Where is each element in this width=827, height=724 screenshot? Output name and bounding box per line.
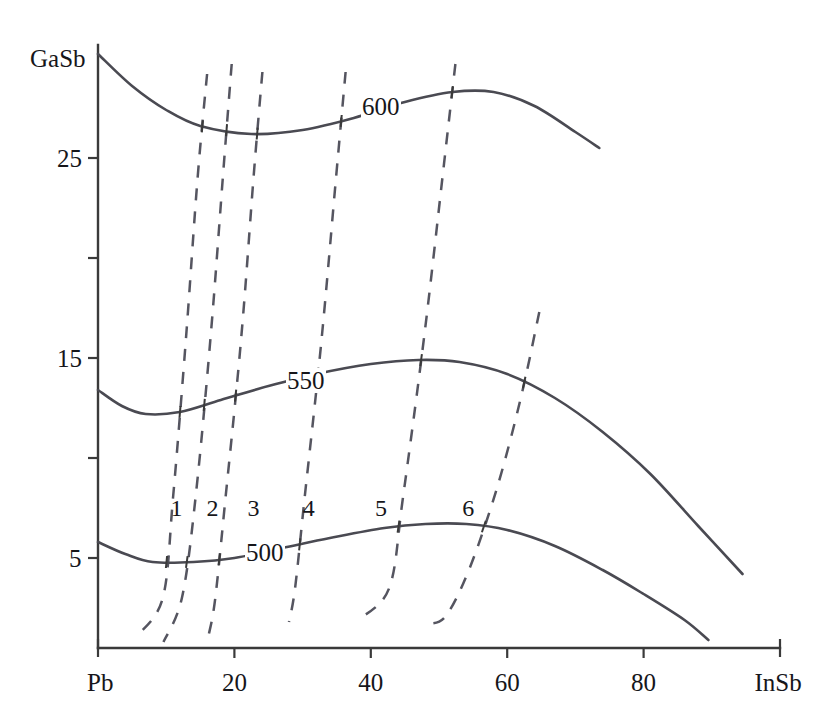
x-axis-start-label: Pb [87,670,113,695]
tie-line-2 [164,64,232,642]
chart-canvas [0,0,827,724]
intersection-mark [219,554,220,566]
tie-line-label-2: 2 [207,496,219,520]
tie-line-label-1: 1 [170,496,182,520]
isotherm-curve-600 [98,54,599,148]
isotherm-label-600: 600 [361,94,401,119]
tie-line-1 [137,74,207,636]
isotherm-label-500: 500 [245,540,285,565]
intersection-mark [186,556,188,568]
tie-line-label-3: 3 [247,496,259,520]
intersection-mark [180,406,181,418]
intersection-mark [166,556,167,568]
y-tick-label-25: 25 [57,146,82,171]
y-axis-top-label: GaSb [30,46,86,71]
x-tick-label-60: 60 [495,670,520,695]
y-tick-label-5: 5 [69,546,82,571]
isotherm-curves-group [98,54,743,640]
x-tick-label-40: 40 [358,670,383,695]
isotherm-label-550: 550 [286,368,326,393]
intersection-mark [341,115,342,127]
intersection-mark [257,128,258,140]
isotherm-curve-550 [98,360,743,574]
intersection-mark [299,538,300,550]
x-tick-label-80: 80 [631,670,656,695]
intersection-mark [235,390,236,402]
intersection-mark [452,86,453,98]
intersection-mark [523,377,526,389]
intersection-mark [204,399,205,411]
x-axis-end-label: InSb [755,670,802,695]
intersection-mark [202,120,203,132]
chart-figure: GaSb 25 15 5 Pb 20 40 60 80 InSb 600 550… [0,0,827,724]
tie-lines-group [137,64,539,642]
tie-line-6 [427,312,540,624]
isotherm-curve-500 [98,523,708,640]
tie-line-label-5: 5 [375,496,387,520]
x-tick-label-20: 20 [222,670,247,695]
y-tick-label-15: 15 [57,346,82,371]
tie-line-label-4: 4 [303,496,315,520]
tie-line-5 [358,64,456,620]
intersection-mark [226,124,227,136]
axes-group [88,45,780,658]
tie-line-label-6: 6 [462,496,474,520]
